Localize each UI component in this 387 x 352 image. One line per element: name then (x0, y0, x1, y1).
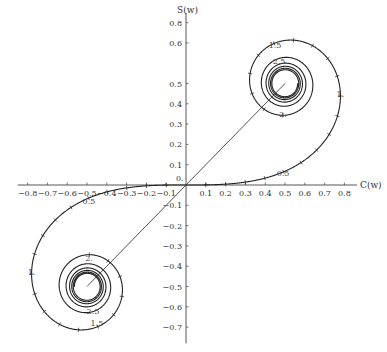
x-tick-label: −0.8 (18, 189, 37, 198)
y-tick-label: 0.4 (169, 100, 182, 109)
y-tick-label: −0.5 (163, 283, 182, 292)
y-tick-label: 0.6 (169, 39, 182, 48)
y-tick-label: 0.3 (169, 120, 182, 129)
x-tick-label: 0.7 (318, 189, 331, 198)
x-tick-label: −0.3 (117, 189, 136, 198)
x-tick-label: 0.4 (259, 189, 272, 198)
spiral-parameter-label: 1. (337, 90, 345, 99)
x-tick-label: 0.3 (239, 189, 252, 198)
y-tick-label: −0.7 (163, 323, 182, 332)
y-tick-label: 0.1 (169, 161, 182, 170)
x-tick-label: 0.2 (219, 189, 232, 198)
x-tick-label: 0.5 (279, 189, 292, 198)
x-axis-label: C(w) (360, 180, 382, 190)
spiral-parameter-label: 0.5 (83, 197, 96, 206)
cornu-spiral-chart: −0.8−0.7−0.6−0.5−0.4−0.3−0.2−0.10.10.20.… (0, 0, 387, 352)
spiral-parameter-label: 2.5 (87, 307, 100, 316)
spiral-parameter-label: 1.5 (91, 319, 104, 328)
y-tick-label: −0.4 (163, 262, 182, 271)
x-tick-label: 0.1 (199, 189, 212, 198)
spiral-parameter-label: 0.5 (277, 169, 290, 178)
y-tick-label: 0.8 (169, 19, 182, 28)
spiral-parameter-label: 2. (279, 110, 287, 119)
x-tick-label: 0.6 (298, 189, 311, 198)
spiral-parameter-label: 1.5 (269, 41, 282, 50)
x-tick-label: −0.6 (57, 189, 76, 198)
spiral-parameter-label: 2. (85, 254, 93, 263)
spiral-tick (120, 296, 124, 297)
y-tick-label: −0.2 (163, 222, 182, 231)
x-tick-label: 0.8 (338, 189, 351, 198)
x-tick-label: −0.1 (156, 189, 175, 198)
y-tick-label: 0.5 (169, 80, 182, 89)
spiral-tick (248, 73, 252, 74)
spiral-parameter-label: 1. (28, 268, 36, 277)
axes (18, 13, 357, 343)
spiral-upper-branch (186, 40, 340, 185)
y-tick-label: −0.6 (163, 303, 182, 312)
y-axis-label: S(w) (177, 5, 198, 15)
x-tick-label: −0.7 (38, 189, 57, 198)
spiral-parameter-label: 2.5 (273, 57, 286, 66)
y-tick-label: 0.2 (169, 140, 182, 149)
y-tick-label: −0.3 (163, 242, 182, 251)
x-tick-label: −0.2 (137, 189, 156, 198)
origin-label: 0. (176, 174, 184, 183)
